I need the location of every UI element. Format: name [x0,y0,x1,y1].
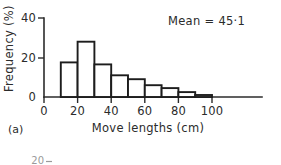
y-axis-label: Frequency (%) [2,5,16,92]
x-axis-label: Move lengths (cm) [92,121,204,135]
x-tick-label-80: 80 [171,104,186,118]
y-tick-label-20: 20 [21,51,36,65]
histogram-bar [61,62,78,97]
histogram-bar [145,85,162,97]
histogram-bar [178,92,195,97]
histogram-bar [94,64,111,97]
y-tick-label-40: 40 [21,11,36,25]
panel-label: (a) [8,123,23,136]
histogram-chart: Frequency (%) 40 20 0 0 20 40 60 80 100 [0,0,281,165]
x-tick-label-100: 100 [201,104,224,118]
x-tick-label-60: 60 [137,104,152,118]
histogram-bar [195,95,212,97]
figure-panel-a: Frequency (%) 40 20 0 0 20 40 60 80 100 [0,0,281,165]
histogram-bar [162,88,179,97]
x-tick-label-20: 20 [70,104,85,118]
x-tick-label-0: 0 [40,104,48,118]
histogram-bar [78,42,95,97]
x-tick-label-40: 40 [104,104,119,118]
histogram-bar [128,79,145,97]
next-panel-tick-label: 20 [31,155,44,165]
y-tick-label-0: 0 [28,90,36,104]
histogram-bar [111,75,128,97]
mean-annotation: Mean = 45·1 [168,14,245,28]
